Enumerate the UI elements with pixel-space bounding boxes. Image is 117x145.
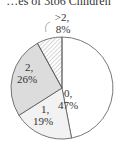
slice-pct-3: 8% — [56, 23, 71, 35]
slice-pct-1: 19% — [33, 115, 53, 127]
slice-label-3: >2, — [55, 11, 70, 23]
slice-label-2: 2, — [25, 61, 34, 73]
leader-line — [46, 22, 51, 32]
slice-pct-0: 47% — [58, 99, 78, 111]
slice-label-1: 1, — [41, 103, 50, 115]
slice-pct-2: 26% — [17, 73, 37, 85]
slice-label-0: 0, — [64, 87, 73, 99]
pie-chart: 0, 47% 1, 19% 2, 26% >2, 8% — [0, 0, 117, 145]
